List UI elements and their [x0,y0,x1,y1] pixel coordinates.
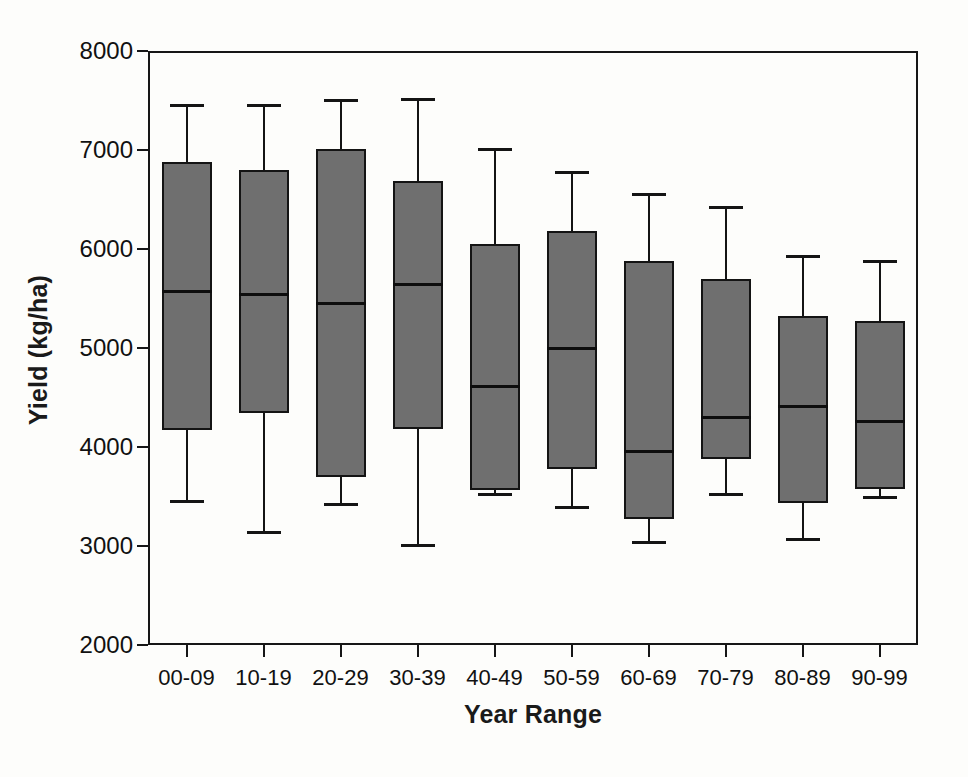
median-line [239,293,289,296]
x-axis-tick-label: 00-09 [158,665,214,691]
upper-whisker-cap [170,104,204,107]
x-axis-tick-label: 30-39 [389,665,445,691]
upper-whisker-cap [555,171,589,174]
x-axis-tick-mark [571,645,573,657]
y-axis-tick-mark [137,248,148,250]
x-axis-tick-mark [879,645,881,657]
lower-whisker-line [648,519,650,542]
box-iqr-rect [316,149,366,477]
x-axis-tick-mark [725,645,727,657]
upper-whisker-line [417,99,419,181]
lower-whisker-cap [247,531,281,534]
box-iqr-rect [855,321,905,488]
upper-whisker-line [648,194,650,261]
y-axis-tick-mark [137,347,148,349]
y-axis-tick-label: 2000 [23,631,133,659]
y-axis-tick-mark [137,149,148,151]
lower-whisker-cap [555,506,589,509]
x-axis-tick-label: 40-49 [466,665,522,691]
lower-whisker-cap [478,493,512,496]
upper-whisker-cap [247,104,281,107]
lower-whisker-cap [786,538,820,541]
x-axis-tick-mark [494,645,496,657]
lower-whisker-cap [170,500,204,503]
x-axis-tick-mark [263,645,265,657]
x-axis-tick-label: 90-99 [851,665,907,691]
x-axis-tick-label: 80-89 [774,665,830,691]
x-axis-tick-label: 70-79 [697,665,753,691]
x-axis-title: Year Range [148,700,918,729]
median-line [547,347,597,350]
x-axis-tick-mark [417,645,419,657]
upper-whisker-line [340,100,342,150]
upper-whisker-line [494,149,496,244]
y-axis-tick-label: 8000 [23,37,133,65]
y-axis-tick-label: 4000 [23,433,133,461]
y-axis-tick-label: 7000 [23,136,133,164]
x-axis-tick-label: 20-29 [312,665,368,691]
upper-whisker-cap [401,98,435,101]
x-axis-tick-label: 50-59 [543,665,599,691]
median-line [701,416,751,419]
box-iqr-rect [393,181,443,429]
lower-whisker-cap [324,503,358,506]
upper-whisker-line [879,261,881,321]
lower-whisker-cap [632,541,666,544]
upper-whisker-cap [709,206,743,209]
lower-whisker-line [186,430,188,501]
x-axis-tick-label: 60-69 [620,665,676,691]
median-line [855,420,905,423]
median-line [778,405,828,408]
y-axis-tick-label: 3000 [23,532,133,560]
box-iqr-rect [624,261,674,519]
median-line [470,385,520,388]
y-axis-tick-label: 6000 [23,235,133,263]
y-axis-tick-mark [137,50,148,52]
upper-whisker-cap [863,260,897,263]
box-iqr-rect [701,279,751,459]
lower-whisker-cap [401,544,435,547]
x-axis-tick-label: 10-19 [235,665,291,691]
lower-whisker-line [417,429,419,545]
upper-whisker-cap [478,148,512,151]
x-axis-tick-mark [802,645,804,657]
upper-whisker-line [571,172,573,231]
y-axis-tick-mark [137,446,148,448]
x-axis-tick-mark [186,645,188,657]
box-iqr-rect [470,244,520,490]
upper-whisker-line [802,256,804,316]
median-line [393,283,443,286]
lower-whisker-line [340,477,342,505]
box-iqr-rect [778,316,828,503]
upper-whisker-cap [632,193,666,196]
box-plot-figure: Yield (kg/ha) 20003000400050006000700080… [0,0,968,777]
lower-whisker-line [802,503,804,539]
upper-whisker-line [725,207,727,278]
box-iqr-rect [162,162,212,430]
median-line [162,290,212,293]
y-axis-tick-label: 5000 [23,334,133,362]
upper-whisker-line [263,105,265,169]
lower-whisker-cap [863,496,897,499]
x-axis-tick-mark [340,645,342,657]
upper-whisker-line [186,105,188,161]
median-line [316,302,366,305]
lower-whisker-line [725,459,727,494]
lower-whisker-line [571,469,573,508]
upper-whisker-cap [324,99,358,102]
upper-whisker-cap [786,255,820,258]
lower-whisker-cap [709,493,743,496]
y-axis-tick-mark [137,644,148,646]
median-line [624,450,674,453]
y-axis-tick-mark [137,545,148,547]
lower-whisker-line [263,413,265,532]
x-axis-tick-mark [648,645,650,657]
